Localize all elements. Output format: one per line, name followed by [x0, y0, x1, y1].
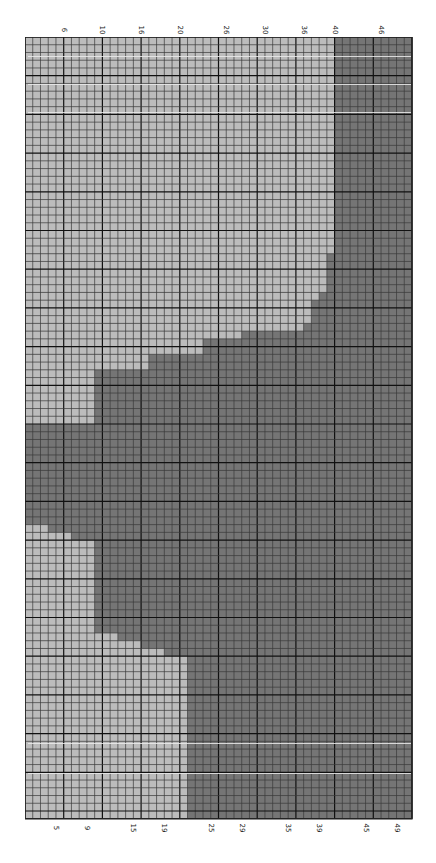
bottom-column-label: 25 — [207, 821, 215, 835]
top-column-label: 16 — [137, 23, 145, 37]
bottom-column-label: 49 — [393, 821, 401, 835]
bottom-column-label: 45 — [362, 821, 370, 835]
stitch-chart-grid — [25, 37, 414, 821]
highlight-streak — [28, 84, 411, 85]
bottom-column-label: 9 — [83, 821, 91, 835]
bottom-column-label: 5 — [52, 821, 60, 835]
highlight-streak — [28, 743, 411, 744]
top-column-label: 40 — [331, 23, 339, 37]
light-region — [25, 641, 141, 649]
highlight-streak — [28, 56, 411, 57]
bottom-column-label: 29 — [238, 821, 246, 835]
light-region — [25, 254, 327, 293]
top-column-label: 36 — [300, 23, 308, 37]
top-column-label: 6 — [60, 23, 68, 37]
light-region — [25, 370, 95, 424]
highlight-streak — [28, 112, 411, 113]
highlight-streak — [28, 773, 411, 774]
bottom-column-label: 19 — [160, 821, 168, 835]
bottom-column-label: 35 — [284, 821, 292, 835]
light-region — [25, 300, 311, 323]
top-column-label: 26 — [222, 23, 230, 37]
bottom-column-label: 15 — [129, 821, 137, 835]
top-column-label: 10 — [98, 23, 106, 37]
top-column-label: 20 — [176, 23, 184, 37]
light-region — [25, 656, 188, 819]
light-region — [25, 525, 48, 533]
top-column-label: 46 — [377, 23, 385, 37]
bottom-column-label: 39 — [315, 821, 323, 835]
top-column-label: 30 — [261, 23, 269, 37]
